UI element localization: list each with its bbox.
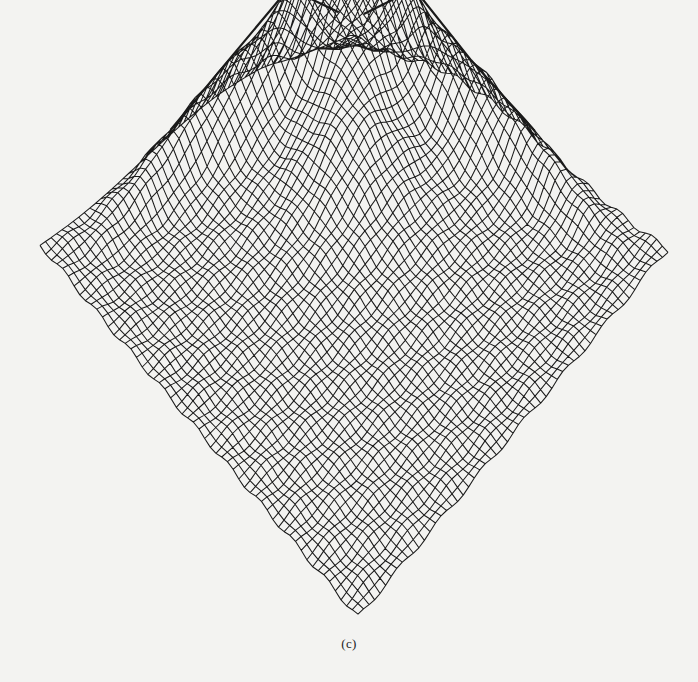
figure-caption: (c) xyxy=(0,636,698,652)
wireframe-surface-plot xyxy=(0,0,698,630)
mesh-lines xyxy=(40,0,668,614)
wireframe-mesh xyxy=(40,0,668,614)
figure: (c) xyxy=(0,0,698,682)
